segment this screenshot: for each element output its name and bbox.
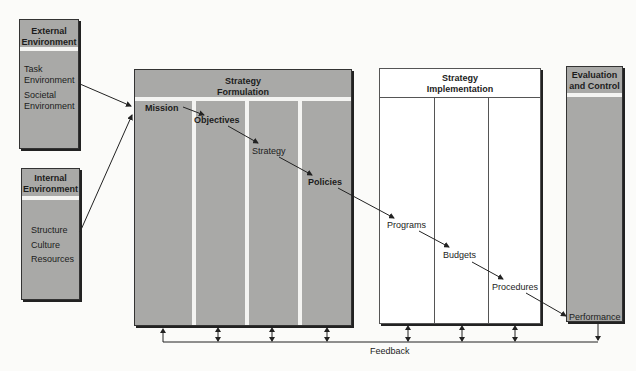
resources-label: Resources	[31, 254, 74, 265]
divider	[22, 196, 79, 200]
procedures-label: Procedures	[492, 282, 538, 293]
column-divider	[192, 99, 196, 325]
societal-environment-label: SocietalEnvironment	[24, 90, 75, 112]
column-divider	[488, 98, 489, 323]
strategy-formulation-title: Strategy Formulation	[135, 76, 351, 98]
column-divider	[245, 99, 249, 325]
performance-label: Performance	[569, 312, 621, 323]
evaluation-control-title: Evaluation and Control	[567, 70, 622, 92]
budgets-label: Budgets	[443, 250, 476, 261]
evaluation-control-box: Evaluation and Control Performance	[566, 66, 623, 322]
divider	[135, 97, 351, 101]
mission-label: Mission	[145, 103, 179, 114]
objectives-label: Objectives	[194, 115, 240, 126]
divider	[380, 97, 540, 98]
internal-environment-box: Internal Environment Structure Culture R…	[21, 168, 80, 300]
column-divider	[298, 99, 302, 325]
external-environment-box: External Environment TaskEnvironment Soc…	[19, 19, 79, 149]
policies-label: Policies	[308, 177, 342, 188]
internal-environment-title: Internal Environment	[22, 173, 79, 195]
external-environment-title: External Environment	[20, 26, 78, 48]
task-environment-label: TaskEnvironment	[24, 64, 75, 86]
title-line: External	[20, 26, 78, 37]
structure-label: Structure	[31, 225, 68, 236]
divider	[20, 47, 78, 51]
culture-label: Culture	[31, 240, 60, 251]
strategy-label: Strategy	[252, 146, 286, 157]
feedback-label: Feedback	[370, 346, 410, 357]
programs-label: Programs	[387, 220, 426, 231]
strategy-implementation-title: Strategy Implementation	[380, 73, 540, 95]
divider	[567, 93, 622, 97]
column-divider	[434, 98, 435, 323]
